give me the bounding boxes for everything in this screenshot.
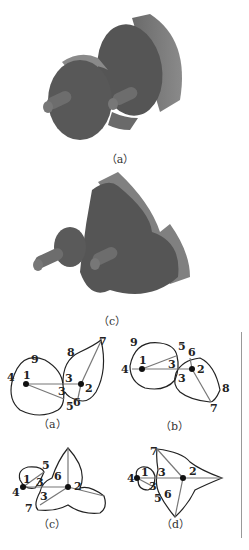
- label-c-5: 5: [42, 459, 50, 472]
- label-d-1: 1: [141, 466, 149, 479]
- label-b-9: 9: [130, 336, 138, 349]
- label-d-2: 2: [189, 465, 197, 478]
- label-b-1: 1: [139, 354, 147, 367]
- label-a-4: 4: [7, 371, 15, 384]
- label-a-3a: 3: [65, 372, 73, 385]
- caption-2d-a: （a）: [38, 418, 67, 431]
- label-a-3b: 3: [58, 385, 66, 398]
- label-b-3b: 3: [178, 372, 186, 385]
- label-c-2: 2: [74, 480, 82, 493]
- label-d-5: 5: [154, 492, 162, 505]
- label-d-3a: 3: [158, 466, 166, 479]
- label-c-1: 1: [23, 473, 31, 486]
- label-a-6: 6: [73, 396, 81, 409]
- caption-2d-d: （d）: [161, 518, 190, 531]
- label-b-8: 8: [222, 382, 230, 395]
- label-b-6: 6: [188, 346, 196, 359]
- label-a-7: 7: [99, 335, 107, 348]
- label-c-3b: 3: [40, 490, 48, 503]
- label-c-4: 4: [12, 486, 20, 499]
- label-a-9: 9: [31, 353, 39, 366]
- label-b-7: 7: [210, 402, 218, 415]
- label-b-4: 4: [121, 363, 129, 376]
- divider-line: [241, 332, 242, 538]
- label-c-6: 6: [54, 470, 62, 483]
- label-c-7: 7: [25, 502, 33, 515]
- label-a-2: 2: [85, 382, 93, 395]
- label-d-4: 4: [127, 472, 135, 485]
- caption-2d-c: （c）: [38, 518, 66, 531]
- label-d-6: 6: [164, 488, 172, 501]
- schematic-diagrams: 9 8 7 4 1 3 2 3 5 6 （a） 9 5 6 4 1 3 2 3 …: [0, 0, 249, 550]
- label-c-3a: 3: [36, 476, 44, 489]
- label-d-7: 7: [150, 445, 158, 458]
- label-b-3a: 3: [168, 358, 176, 371]
- caption-2d-b: （b）: [160, 420, 189, 433]
- label-b-5: 5: [178, 340, 186, 353]
- label-a-8: 8: [67, 346, 75, 359]
- label-b-2: 2: [197, 363, 205, 376]
- label-a-1: 1: [23, 369, 31, 382]
- schematic-b: [130, 343, 220, 402]
